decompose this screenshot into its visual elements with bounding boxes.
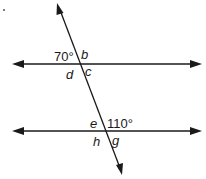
angle-label-c: c (85, 64, 92, 79)
angle-label-110: 110° (107, 116, 133, 131)
diagram-svg: 70° b d c e 110° h g (0, 0, 206, 179)
angle-label-h: h (93, 134, 100, 149)
angle-label-e: e (90, 116, 97, 131)
transversal-line (57, 3, 124, 175)
dot-mark (3, 9, 5, 11)
angle-label-b: b (81, 47, 88, 62)
angle-label-d: d (66, 67, 74, 82)
diagram: 70° b d c e 110° h g (0, 0, 206, 179)
upper-parallel-line (12, 60, 202, 68)
angle-label-g: g (112, 133, 120, 148)
angle-label-70: 70° (54, 49, 74, 64)
